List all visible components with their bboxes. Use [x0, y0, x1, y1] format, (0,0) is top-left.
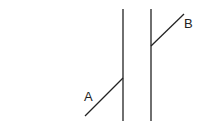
label-b: B [184, 16, 193, 31]
segment-b [151, 14, 184, 46]
poggendorff-diagram: A B [0, 0, 208, 140]
label-a: A [84, 89, 93, 104]
